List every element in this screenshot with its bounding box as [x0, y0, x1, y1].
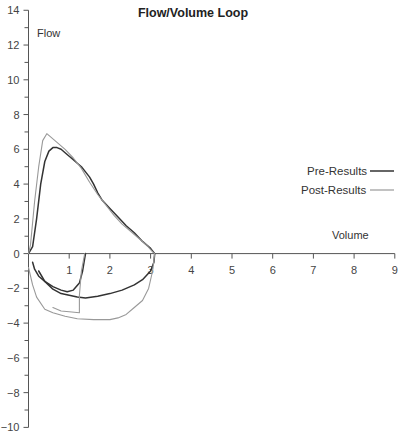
- y-tick-label: −8: [7, 387, 20, 399]
- series-curve: [39, 254, 86, 292]
- x-tick-label: 1: [66, 264, 72, 276]
- y-tick-label: −6: [7, 352, 20, 364]
- y-tick-label: 2: [13, 213, 19, 225]
- x-tick-label: 4: [188, 264, 194, 276]
- series-pre-results: [29, 148, 155, 298]
- x-tick-label: 5: [229, 264, 235, 276]
- x-tick-label: 6: [270, 264, 276, 276]
- x-axis-label: Volume: [332, 229, 369, 241]
- series-curve: [53, 254, 85, 313]
- y-tick-label: 14: [7, 4, 19, 16]
- series-post-results: [29, 134, 155, 320]
- plot-series: [29, 134, 155, 320]
- legend-label-pre: Pre-Results: [307, 165, 367, 177]
- chart-title: Flow/Volume Loop: [138, 6, 249, 20]
- y-axis-label: Flow: [37, 27, 60, 39]
- y-tick-label: −10: [1, 421, 20, 433]
- y-tick-label: −2: [7, 282, 20, 294]
- y-tick-label: 0: [13, 248, 19, 260]
- series-curve: [33, 254, 155, 298]
- y-tick-label: 6: [13, 143, 19, 155]
- series-curve: [29, 148, 155, 254]
- y-tick-label: 10: [7, 74, 19, 86]
- y-tick-label: −4: [7, 317, 20, 329]
- y-tick-label: 8: [13, 109, 19, 121]
- x-tick-label: 8: [351, 264, 357, 276]
- y-axis: −10−8−6−4−202468101214: [1, 4, 29, 433]
- legend-label-post: Post-Results: [301, 184, 366, 196]
- flow-volume-chart: Flow/Volume Loop Flow Volume −10−8−6−4−2…: [0, 0, 400, 438]
- x-tick-label: 2: [107, 264, 113, 276]
- y-tick-label: 12: [7, 39, 19, 51]
- series-curve: [29, 134, 155, 254]
- series-curve: [29, 254, 155, 320]
- legend: Pre-Results Post-Results: [301, 165, 394, 196]
- x-tick-label: 9: [392, 264, 398, 276]
- x-tick-label: 7: [310, 264, 316, 276]
- y-tick-label: 4: [13, 178, 19, 190]
